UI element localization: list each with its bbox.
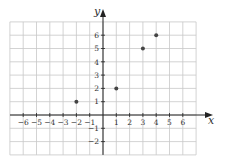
y-tick-label: 3 [94, 71, 99, 80]
x-tick-label: 6 [180, 118, 185, 127]
y-tick-label: 2 [94, 84, 99, 93]
data-point [141, 47, 145, 51]
x-tick-label: 2 [127, 118, 132, 127]
y-tick-label: 6 [94, 31, 99, 40]
data-point [74, 100, 78, 104]
x-tick-label: −6 [18, 118, 29, 127]
x-tick-labels: −6−5−4−3−2−1123456 [18, 118, 186, 127]
x-tick-label: −5 [31, 118, 42, 127]
x-tick-label: 5 [167, 118, 172, 127]
y-axis-arrow-icon [100, 9, 106, 17]
x-tick-label: −4 [44, 118, 55, 127]
y-tick-label: 1 [94, 97, 99, 106]
x-tick-label: 3 [141, 118, 146, 127]
y-axis-label: y [93, 5, 101, 18]
x-tick-label: 1 [114, 118, 119, 127]
y-tick-label: −1 [88, 124, 99, 133]
y-tick-label: −2 [88, 137, 99, 146]
x-tick-label: −3 [58, 118, 69, 127]
y-tick-label: 5 [94, 44, 99, 53]
data-point [154, 33, 158, 37]
x-tick-label: −2 [71, 118, 82, 127]
x-axis-label: x [208, 114, 215, 127]
coordinate-plane: −6−5−4−3−2−1123456 −2−1123456 x y [0, 0, 225, 161]
x-tick-label: 4 [154, 118, 159, 127]
data-point [114, 86, 118, 90]
y-tick-label: 4 [94, 58, 99, 67]
